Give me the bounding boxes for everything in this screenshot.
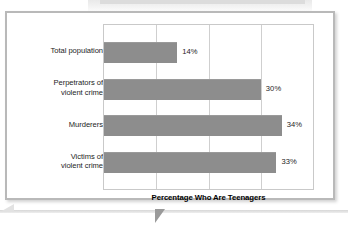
bar [104, 152, 276, 173]
page-top-edge-line [100, 0, 305, 4]
category-label-line: Victims of [9, 152, 103, 161]
plot-area: 14%30%34%33% [103, 24, 314, 190]
category-label-line: violent crime [9, 88, 103, 97]
category-label: Total population [9, 46, 103, 55]
category-label-line: violent crime [9, 161, 103, 170]
category-label-line: Murderers [9, 120, 103, 129]
figure-page: Total populationPerpetrators ofviolent c… [0, 0, 348, 227]
bar-value-label: 33% [281, 157, 297, 167]
bar [104, 42, 177, 63]
page-bottom-rule [0, 210, 348, 213]
bar [104, 115, 282, 136]
category-label-line: Perpetrators of [9, 78, 103, 87]
category-label: Murderers [9, 120, 103, 129]
category-label-line: Total population [9, 46, 103, 55]
page-bottom-left-wedge [0, 204, 14, 212]
chart-figure-frame: Total populationPerpetrators ofviolent c… [5, 11, 335, 200]
category-axis-labels: Total populationPerpetrators ofviolent c… [9, 24, 103, 190]
chart-body: Total populationPerpetrators ofviolent c… [7, 13, 333, 198]
page-bottom-triangle-marker [155, 209, 165, 223]
bar-value-label: 14% [182, 47, 198, 57]
category-label: Perpetrators ofviolent crime [9, 78, 103, 97]
bar-value-label: 30% [266, 84, 282, 94]
category-label: Victims ofviolent crime [9, 152, 103, 171]
bar [104, 79, 261, 100]
x-axis-title: Percentage Who Are Teenagers [103, 193, 314, 202]
bar-value-label: 34% [287, 120, 303, 130]
